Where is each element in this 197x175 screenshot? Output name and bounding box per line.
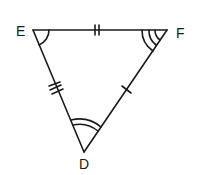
triangle-diagram: E F D [0,0,197,175]
tick-marks-ed [49,82,63,94]
side-fd [84,30,167,152]
triangle-figure [0,0,197,175]
vertex-label-e: E [16,24,25,38]
tick-marks-fd [122,86,131,93]
vertex-label-f: F [176,26,185,40]
angle-arcs-f [142,30,160,51]
vertex-label-d: D [79,157,89,171]
angle-arc-e [39,30,49,45]
angle-arcs-d [71,119,101,131]
